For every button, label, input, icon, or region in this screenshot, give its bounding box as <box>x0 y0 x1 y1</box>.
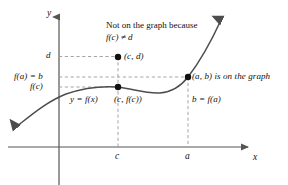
y-tick-label-fc: f(c) <box>30 81 43 91</box>
x-tick-label-c: c <box>115 151 119 161</box>
x-tick-label-a: a <box>185 151 190 161</box>
label-point-c-fc: (c, f(c)) <box>114 94 142 104</box>
note-not-on-graph-line1: Not on the graph because <box>106 20 197 30</box>
label-b-equals-fa: b = f(a) <box>192 94 221 104</box>
note-not-on-graph-line2: f(c) ≠ d <box>106 32 132 42</box>
y-tick-label-fa-b: f(a) = b <box>14 71 43 81</box>
y-tick-label-d: d <box>46 50 51 60</box>
point-a-b <box>185 74 191 80</box>
label-point-a-b-text: (a, b) is on the graph <box>192 71 270 81</box>
x-axis-label: x <box>253 152 257 162</box>
label-point-c-d: (c, d) <box>124 51 144 61</box>
function-graph-figure: y x c a d f(a) = b f(c) Not on the graph… <box>0 0 288 185</box>
y-axis-label: y <box>47 8 51 18</box>
point-c-fc <box>115 84 121 90</box>
point-c-d <box>115 54 121 60</box>
label-curve-equation: y = f(x) <box>70 94 98 104</box>
label-point-a-b: (a, b) is on the graph <box>192 71 270 81</box>
